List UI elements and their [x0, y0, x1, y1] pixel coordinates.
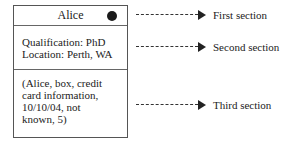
- first-section-label: First section: [213, 9, 267, 21]
- first-section: Alice: [14, 6, 127, 26]
- filled-circle-icon: [107, 11, 117, 21]
- tuple-text: (Alice, box, credit card information, 10…: [22, 77, 102, 125]
- second-section-label: Second section: [213, 41, 279, 53]
- third-section-label: Third section: [213, 99, 271, 111]
- entity-box: Alice Qualification: PhD Location: Perth…: [13, 5, 128, 138]
- second-section: Qualification: PhD Location: Perth, WA: [14, 26, 127, 70]
- third-section: (Alice, box, credit card information, 10…: [14, 70, 127, 137]
- attributes-text: Qualification: PhD Location: Perth, WA: [22, 36, 113, 60]
